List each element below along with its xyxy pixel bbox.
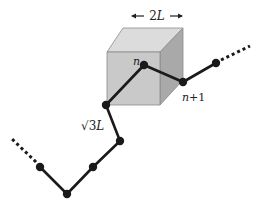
arrow-left-icon [131,14,136,19]
chain-continuation-left [12,139,36,162]
chain-node [102,101,110,109]
diagram-canvas: 2L n n+1 √3L [0,0,258,206]
node-n-plus-1-label: n+1 [182,91,205,104]
polymer-chain [40,63,216,194]
bond-length-label: √3L [81,119,104,133]
chain-node-n-plus-1 [179,78,187,86]
chain-node [36,163,44,171]
chain-node [63,190,71,198]
chain-node [89,163,97,171]
arrow-right-icon [178,14,183,19]
chain-node [212,59,220,67]
chain-continuation-right [221,46,250,60]
cube-width-label: 2L [149,9,165,23]
node-n-label: n [133,55,140,68]
chain-node-n [140,61,148,69]
chain-node [116,137,124,145]
